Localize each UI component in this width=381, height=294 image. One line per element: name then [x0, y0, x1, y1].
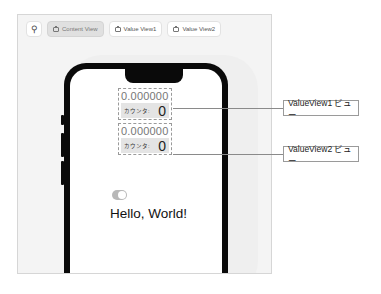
- callout-value-view-1: ValueView1 ビュー: [283, 100, 359, 116]
- preview-toolbar: ⚲ Content View Value View1 Value View2: [26, 21, 221, 37]
- preview-icon: [53, 27, 59, 32]
- volume-up-button: [61, 133, 64, 157]
- mute-switch: [61, 115, 64, 125]
- counter-row: カウンタ: 0: [121, 103, 169, 118]
- value-number: 0.000000: [121, 90, 169, 103]
- toggle-knob: [118, 191, 126, 199]
- callout-line-2: [173, 154, 283, 155]
- phone-notch: [125, 69, 183, 83]
- callout-value-view-2: ValueView2 ビュー: [283, 146, 359, 162]
- value-view-1: 0.000000 カウンタ: 0: [118, 88, 172, 120]
- tab-label: Value View2: [182, 26, 215, 32]
- value-number: 0.000000: [121, 125, 169, 138]
- volume-down-button: [61, 161, 64, 185]
- pin-icon: ⚲: [31, 24, 38, 34]
- preview-icon: [115, 27, 121, 32]
- tab-value-view2[interactable]: Value View2: [167, 21, 221, 37]
- tab-label: Content View: [62, 26, 98, 32]
- counter-value: 0: [158, 104, 166, 118]
- preview-icon: [173, 27, 179, 32]
- counter-value: 0: [158, 139, 166, 153]
- pin-button[interactable]: ⚲: [26, 21, 42, 37]
- counter-label: カウンタ:: [124, 107, 150, 115]
- value-view-2: 0.000000 カウンタ: 0: [118, 123, 172, 155]
- tab-label: Value View1: [124, 26, 157, 32]
- preview-canvas: ⚲ Content View Value View1 Value View2 0…: [17, 14, 272, 274]
- counter-row: カウンタ: 0: [121, 138, 169, 153]
- tab-value-view1[interactable]: Value View1: [109, 21, 163, 37]
- hello-text: Hello, World!: [110, 206, 187, 221]
- phone-screen: 0.000000 カウンタ: 0 0.000000 カウンタ: 0 Hello,…: [70, 69, 222, 274]
- tab-content-view[interactable]: Content View: [47, 21, 104, 37]
- iphone-frame: 0.000000 カウンタ: 0 0.000000 カウンタ: 0 Hello,…: [64, 63, 228, 274]
- callout-line-1: [173, 108, 283, 109]
- counter-label: カウンタ:: [124, 142, 150, 150]
- toggle-switch[interactable]: [112, 190, 127, 200]
